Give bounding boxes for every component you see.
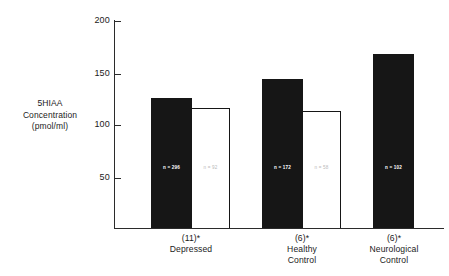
bar-label-neurological-control-solid: n = 102: [373, 165, 414, 170]
chart-figure: 5HIAA Concentration (pmol/ml) 200 150 10…: [0, 0, 449, 276]
bar-depressed-solid: n = 296: [151, 98, 192, 228]
bar-label-healthy-control-solid: n = 172: [262, 165, 303, 170]
bar-neurological-control-solid: n = 102: [373, 54, 414, 228]
bar-label-healthy-control-open: n = 58: [303, 165, 340, 170]
category-label-neurological-control: (6)* Neurological Control: [334, 233, 449, 266]
category-name-depressed: Depressed: [131, 244, 251, 255]
y-tick-mark-200: [114, 21, 121, 22]
category-name2-neurological-control: Control: [334, 255, 449, 266]
bar-depressed-open: n = 92: [191, 108, 230, 228]
x-axis-line: [114, 228, 444, 229]
y-tick-mark-100: [114, 125, 121, 126]
y-tick-mark-150: [114, 74, 121, 75]
category-count-depressed: (11)*: [131, 233, 251, 244]
bar-label-depressed-open: n = 92: [192, 165, 229, 170]
plot-area: 200 150 100 50 n = 296 n = 92 n = 172 n …: [0, 0, 449, 276]
y-tick-mark-50: [114, 178, 121, 179]
y-tick-label-150: 150: [80, 69, 110, 78]
category-count-neurological-control: (6)*: [334, 233, 449, 244]
y-tick-label-100: 100: [80, 120, 110, 129]
bar-healthy-control-solid: n = 172: [262, 79, 303, 228]
category-label-depressed: (11)* Depressed: [131, 233, 251, 255]
y-tick-label-50: 50: [80, 173, 110, 182]
bar-label-depressed-solid: n = 296: [151, 165, 192, 170]
category-name-neurological-control: Neurological: [334, 244, 449, 255]
bar-healthy-control-open: n = 58: [302, 111, 341, 228]
y-tick-label-200: 200: [80, 16, 110, 25]
